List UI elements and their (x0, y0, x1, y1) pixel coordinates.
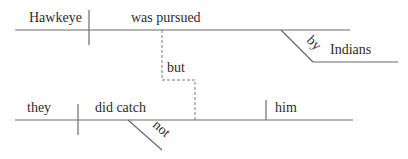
clause-1-verb: was pursued (131, 10, 201, 25)
preposition-object: Indians (330, 42, 371, 57)
clause-2-subject: they (27, 100, 51, 115)
clause-2-object: him (275, 100, 297, 115)
preposition-word: by (304, 33, 325, 54)
sentence-diagram: Hawkeye was pursued by Indians but they … (0, 0, 408, 159)
conjunction-word: but (167, 60, 185, 75)
clause-2-verb: did catch (95, 100, 146, 115)
clause-1-subject: Hawkeye (29, 10, 82, 25)
conjunction-connector (162, 30, 195, 120)
